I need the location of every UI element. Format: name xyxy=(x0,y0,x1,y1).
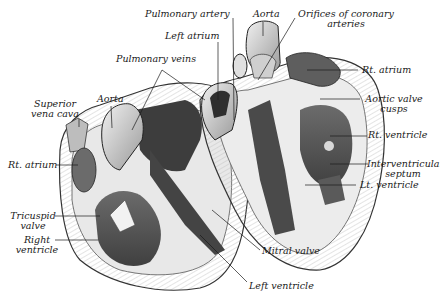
label-left-atrium: Left atrium xyxy=(165,31,219,41)
label-aorta-top: Aorta xyxy=(253,9,280,19)
label-rt-atrium-right: Rt. atrium xyxy=(362,65,411,75)
label-right-ventricle: Right ventricle xyxy=(14,235,60,255)
label-aortic-valve-line2: cusps xyxy=(360,104,428,114)
label-orifices-line2: arteries xyxy=(288,19,404,29)
label-rt-ventricle: Rt. ventricle xyxy=(368,130,428,140)
label-pulmonary-artery: Pulmonary artery xyxy=(145,9,230,19)
label-mitral-valve: Mitral valve xyxy=(262,246,320,256)
label-right-ventricle-line2: ventricle xyxy=(14,245,60,255)
label-aortic-valve-cusps: Aortic valve cusps xyxy=(360,94,428,114)
label-left-ventricle: Left ventricle xyxy=(249,281,314,291)
label-superior-vena-cava: Superior vena cava xyxy=(30,99,80,119)
label-tricuspid-line2: valve xyxy=(10,221,56,231)
heart-illustration xyxy=(0,0,440,301)
label-interventricular-septum: Interventricular septum xyxy=(367,159,439,179)
label-rt-atrium-left: Rt. atrium xyxy=(8,160,57,170)
label-pulmonary-veins: Pulmonary veins xyxy=(116,54,196,64)
label-interventricular-line2: septum xyxy=(367,169,439,179)
label-superior-line2: vena cava xyxy=(30,109,80,119)
label-tricuspid-valve: Tricuspid valve xyxy=(10,211,56,231)
label-lt-ventricle: Lt. ventricle xyxy=(360,180,419,190)
label-aorta-left: Aorta xyxy=(97,94,124,104)
label-orifices-coronary-arteries: Orifices of coronary arteries xyxy=(288,9,404,29)
heart-diagram: Pulmonary artery Aorta Orifices of coron… xyxy=(0,0,440,301)
